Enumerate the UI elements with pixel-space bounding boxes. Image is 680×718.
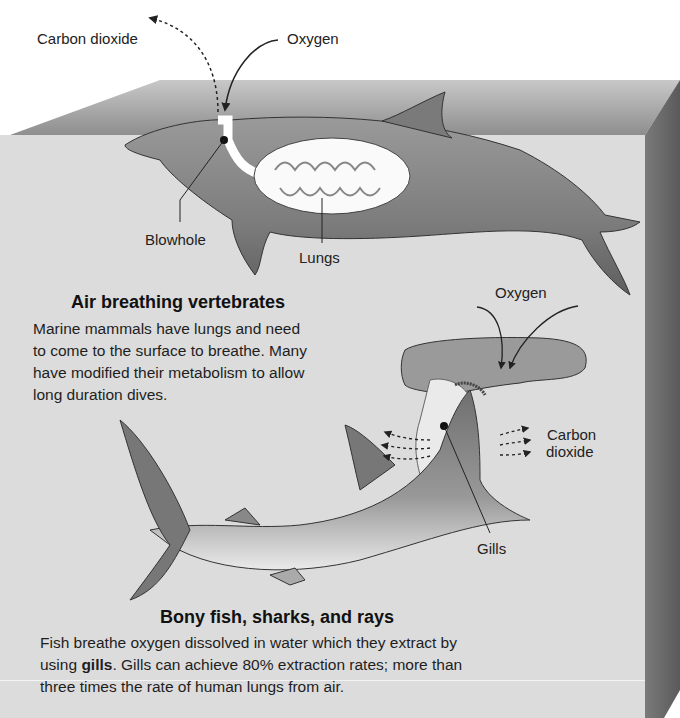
fish-heading: Bony fish, sharks, and rays: [160, 607, 394, 628]
air-breathing-heading: Air breathing vertebrates: [71, 292, 285, 313]
label-carbon-dioxide-shark-2: dioxide: [546, 443, 594, 460]
divider-line: [0, 680, 645, 681]
fish-text: Fish breathe oxygen dissolved in water w…: [40, 632, 462, 698]
label-oxygen-shark: Oxygen: [495, 284, 547, 301]
air-text-line: to come to the surface to breathe. Many: [33, 340, 307, 362]
label-oxygen-top: Oxygen: [287, 30, 339, 47]
label-carbon-dioxide-top: Carbon dioxide: [37, 30, 138, 47]
label-gills: Gills: [477, 540, 506, 557]
fish-text-segment: using: [40, 656, 81, 673]
fish-text-line: Fish breathe oxygen dissolved in water w…: [40, 632, 462, 654]
air-text-line: have modified their metabolism to allow: [33, 362, 307, 384]
air-breathing-text: Marine mammals have lungs and need to co…: [33, 318, 307, 406]
gills-emphasis: gills: [81, 656, 112, 673]
air-text-line: long duration dives.: [33, 384, 307, 406]
label-carbon-dioxide-shark-1: Carbon: [547, 426, 596, 443]
fish-text-line: using gills. Gills can achieve 80% extra…: [40, 654, 462, 676]
air-text-line: Marine mammals have lungs and need: [33, 318, 307, 340]
label-lungs: Lungs: [299, 249, 340, 266]
label-blowhole: Blowhole: [145, 231, 206, 248]
fish-text-segment: . Gills can achieve 80% extraction rates…: [112, 656, 462, 673]
